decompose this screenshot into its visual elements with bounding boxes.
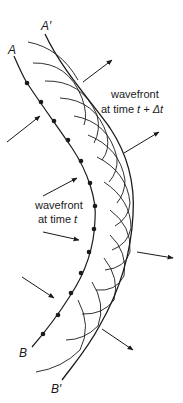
arrow-icon <box>22 277 54 298</box>
arrow-icon <box>83 60 112 82</box>
arrow-icon <box>7 116 40 142</box>
arrow-icon <box>124 132 159 153</box>
source-point <box>39 100 44 105</box>
label-wavefront-t-line1: wavefront <box>34 199 83 211</box>
source-point <box>56 313 61 318</box>
arrow-icon <box>137 252 173 258</box>
wavelet-arc <box>45 81 98 143</box>
label-prefix: at time <box>38 213 74 225</box>
source-point <box>87 250 92 255</box>
source-point <box>93 204 98 209</box>
source-point <box>41 332 46 337</box>
source-point <box>92 227 97 232</box>
source-point <box>69 291 74 296</box>
label-variable: t <box>74 213 78 225</box>
arrow-icon <box>43 178 77 196</box>
wavelet-arc <box>28 42 78 80</box>
label-point-a-prime: A′ <box>40 19 52 33</box>
wavelet-arc <box>74 116 117 182</box>
source-point <box>79 271 84 276</box>
source-point <box>88 181 93 186</box>
arrow-icon <box>102 329 133 350</box>
huygens-diagram: A A′ B B′ wavefront at time t + Δt wavef… <box>0 0 183 403</box>
label-wavefront-tdt-line2: at time t + Δt <box>101 103 164 115</box>
diagram-canvas: A A′ B B′ wavefront at time t + Δt wavef… <box>0 0 183 403</box>
label-prefix: at time <box>101 103 137 115</box>
source-point <box>66 138 71 143</box>
source-point <box>79 159 84 164</box>
wavelet-arc <box>66 282 101 340</box>
label-point-a: A <box>7 43 16 57</box>
label-wavefront-t-line2: at time t <box>38 213 78 225</box>
label-wavefront-tdt-line1: wavefront <box>110 88 159 100</box>
arrow-icon <box>43 232 79 240</box>
wavelet-arc <box>33 63 86 125</box>
wavelet-arc <box>97 157 130 226</box>
source-point <box>52 119 57 124</box>
source-point <box>25 81 30 86</box>
label-point-b: B <box>19 346 27 360</box>
label-point-b-prime: B′ <box>51 382 62 396</box>
label-variable: t + Δt <box>137 103 164 115</box>
